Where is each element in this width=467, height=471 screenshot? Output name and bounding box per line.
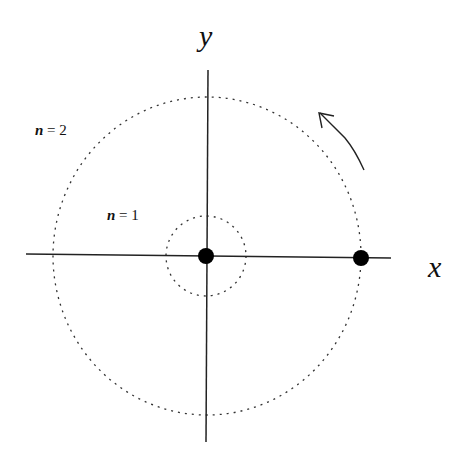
x-axis-label: x xyxy=(427,250,442,283)
rotation-arrow-icon xyxy=(320,113,364,170)
orbit-n1-label: n = 1 xyxy=(107,207,139,223)
y-axis-label: y xyxy=(196,19,213,52)
arrowhead-icon xyxy=(319,113,334,128)
diagram-canvas: y x n = 2 n = 1 xyxy=(0,0,467,471)
orbit-n2-label: n = 2 xyxy=(35,122,67,138)
orbit-diagram: y x n = 2 n = 1 xyxy=(0,0,467,471)
orbit-dot xyxy=(353,250,369,266)
origin-dot xyxy=(198,248,214,264)
